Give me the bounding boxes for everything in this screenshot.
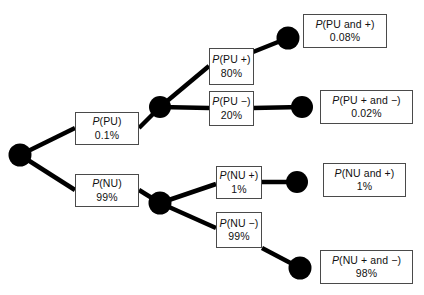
terminal-node-nu-and-pos [286, 171, 308, 193]
branch-label-pu-negative-name: P(PU −) [212, 95, 250, 108]
outcome-box-nu-and-positive: P(NU and +) 1% [323, 163, 406, 197]
branch-label-nu-negative-name: P(NU −) [220, 217, 259, 230]
branch-label-pu-positive: P(PU +) 80% [209, 48, 254, 85]
p-symbol: P [220, 169, 227, 181]
branch-label-pu-positive-value: 80% [221, 67, 242, 80]
branch-label-pu-name: P(PU) [92, 115, 121, 128]
outcome-nu-and-positive-name: P(NU and +) [335, 167, 395, 180]
branch-label-nu-negative-value: 99% [228, 230, 249, 243]
branch-label-pu: P(PU) 0.1% [75, 112, 139, 145]
branch-label-nu-positive-value: 1% [231, 183, 246, 196]
terminal-node-pu-and-pos [277, 27, 300, 50]
branch-label-pu-positive-name: P(PU +) [212, 53, 250, 66]
root-node [9, 144, 32, 167]
outcome-pu-and-positive-value: 0.08% [330, 31, 360, 44]
branch-label-nu-negative: P(NU −) 99% [216, 212, 262, 248]
outcome-pu-positive-and-negative-value: 0.02% [351, 107, 381, 120]
branch-label-nu: P(NU) 99% [75, 174, 139, 207]
branch-label-nu-name: P(NU) [92, 177, 122, 190]
branch-label-nu-positive-name: P(NU +) [220, 169, 259, 182]
probability-tree-diagram: P(PU) 0.1% P(NU) 99% P(PU +) 80% P(PU −)… [0, 0, 424, 295]
outcome-box-nu-positive-and-negative: P(NU + and −) 98% [320, 250, 413, 284]
branch-label-nu-positive: P(NU +) 1% [216, 166, 262, 199]
p-symbol: P [335, 167, 342, 179]
outcome-box-pu-positive-and-negative: P(PU + and −) 0.02% [320, 90, 413, 124]
p-symbol: P [220, 217, 227, 229]
outcome-nu-positive-and-negative-name: P(NU + and −) [332, 254, 401, 267]
branch-label-pu-negative: P(PU −) 20% [209, 91, 254, 126]
branch-label-pu-value: 0.1% [95, 129, 119, 142]
p-symbol: P [92, 115, 99, 127]
outcome-nu-positive-and-negative-value: 98% [356, 267, 377, 280]
outcome-box-pu-and-positive: P(PU and +) 0.08% [303, 14, 387, 48]
terminal-node-nu-pos-and-neg [289, 257, 312, 280]
branch-label-pu-negative-value: 20% [221, 109, 242, 122]
outcome-pu-positive-and-negative-name: P(PU + and −) [332, 94, 400, 107]
branch-label-nu-value: 99% [96, 191, 117, 204]
outcome-nu-and-positive-value: 1% [357, 180, 372, 193]
intermediate-node-pu [149, 96, 171, 118]
intermediate-node-nu [149, 192, 172, 215]
terminal-node-pu-pos-and-neg [291, 96, 313, 118]
outcome-pu-and-positive-name: P(PU and +) [315, 18, 374, 31]
p-symbol: P [315, 18, 322, 30]
